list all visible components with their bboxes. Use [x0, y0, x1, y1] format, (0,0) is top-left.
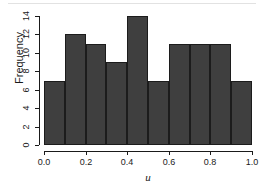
y-tick-label: 14	[21, 8, 31, 24]
y-tick-mark	[35, 127, 39, 128]
x-tick-label: 0.4	[114, 157, 140, 167]
x-tick-label: 0.2	[73, 157, 99, 167]
histogram-bar	[44, 81, 65, 146]
histogram-bar	[127, 16, 148, 145]
x-tick-mark	[169, 151, 170, 155]
y-tick-mark	[35, 145, 39, 146]
y-tick-label: 0	[21, 137, 31, 153]
y-tick-label: 10	[21, 45, 31, 61]
y-tick-mark	[35, 71, 39, 72]
x-axis-label: u	[128, 171, 168, 183]
x-tick-mark	[86, 151, 87, 155]
y-tick-mark	[35, 16, 39, 17]
y-tick-label: 6	[21, 82, 31, 98]
histogram-figure: Frequency 02468101214 0.00.20.40.60.81.0…	[0, 0, 263, 185]
y-axis-line	[39, 16, 40, 145]
x-tick-label: 0.6	[156, 157, 182, 167]
x-tick-label: 0.8	[197, 157, 223, 167]
histogram-bar	[86, 44, 107, 145]
x-tick-mark	[252, 151, 253, 155]
x-axis-line	[44, 151, 252, 152]
y-tick-mark	[35, 53, 39, 54]
y-tick-label: 8	[21, 63, 31, 79]
x-tick-mark	[127, 151, 128, 155]
histogram-bar	[210, 44, 231, 145]
x-tick-label: 1.0	[239, 157, 263, 167]
x-tick-label: 0.0	[31, 157, 57, 167]
y-tick-label: 4	[21, 100, 31, 116]
y-tick-label: 2	[21, 119, 31, 135]
y-tick-mark	[35, 90, 39, 91]
histogram-bar	[148, 81, 169, 146]
histogram-bar	[231, 81, 252, 146]
y-tick-mark	[35, 34, 39, 35]
x-tick-mark	[210, 151, 211, 155]
histogram-bar	[169, 44, 190, 145]
y-tick-mark	[35, 108, 39, 109]
histogram-bar	[65, 34, 86, 145]
y-tick-label: 12	[21, 26, 31, 42]
histogram-bar	[106, 62, 127, 145]
histogram-bar	[190, 44, 211, 145]
x-tick-mark	[44, 151, 45, 155]
top-divider-rule	[8, 3, 256, 4]
